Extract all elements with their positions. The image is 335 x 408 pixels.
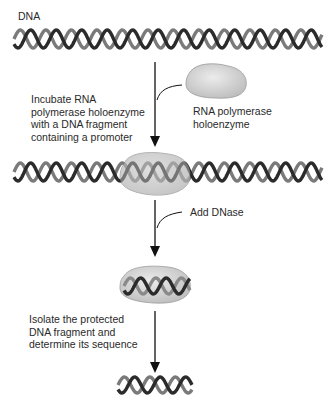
arrow-step3: [150, 311, 160, 373]
label-step2: Add DNase: [190, 206, 244, 219]
dna-helix-fragment: [118, 377, 192, 393]
label-step3: Isolate the protected DNA fragment and d…: [29, 313, 138, 351]
arrow-step1: [150, 62, 182, 147]
dna-helix-top: [14, 30, 322, 48]
label-enzyme: RNA polymerase holoenzyme: [193, 105, 272, 130]
rna-polymerase-blob: [186, 64, 246, 98]
arrow-step2: [150, 200, 182, 257]
label-dna: DNA: [18, 10, 40, 23]
bound-enzyme-overlay: [120, 153, 190, 196]
protected-enzyme-blob: [120, 266, 190, 303]
label-step1: Incubate RNA polymerase holoenzyme with …: [31, 93, 145, 143]
